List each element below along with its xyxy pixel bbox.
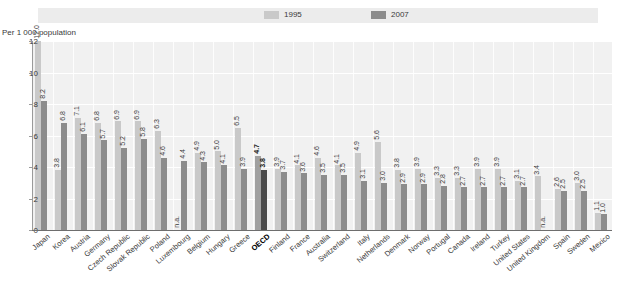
legend-label-1995: 1995: [284, 10, 302, 20]
y-axis-tick-label: 10: [0, 68, 38, 77]
y-axis-tick-label: 6: [0, 131, 38, 140]
x-axis-category-labels: JapanKoreaAustriaGermanyCzech RepublicSl…: [32, 232, 612, 302]
chart-page: 1995 2007 Per 1 000 population 12.08.23.…: [0, 0, 622, 302]
y-axis-tick-label: 4: [0, 163, 38, 172]
legend-label-2007: 2007: [391, 10, 409, 20]
y-axis-tick-mark: [29, 136, 32, 137]
legend-entry-2007: 2007: [371, 10, 409, 20]
y-axis-tick-mark: [29, 199, 32, 200]
y-axis-tick-mark: [29, 167, 32, 168]
y-axis: 024681012: [32, 41, 612, 230]
legend-swatch-icon-1995: [264, 11, 279, 19]
legend-swatch-icon-2007: [371, 11, 386, 19]
chart-legend: 1995 2007: [38, 8, 598, 23]
y-axis-tick-mark: [29, 41, 32, 42]
y-axis-tick-label: 8: [0, 100, 38, 109]
y-axis-tick-label: 12: [0, 37, 38, 46]
legend-entry-1995: 1995: [264, 10, 302, 20]
y-axis-tick-label: 2: [0, 194, 38, 203]
y-axis-tick-mark: [29, 104, 32, 105]
y-axis-tick-mark: [29, 73, 32, 74]
